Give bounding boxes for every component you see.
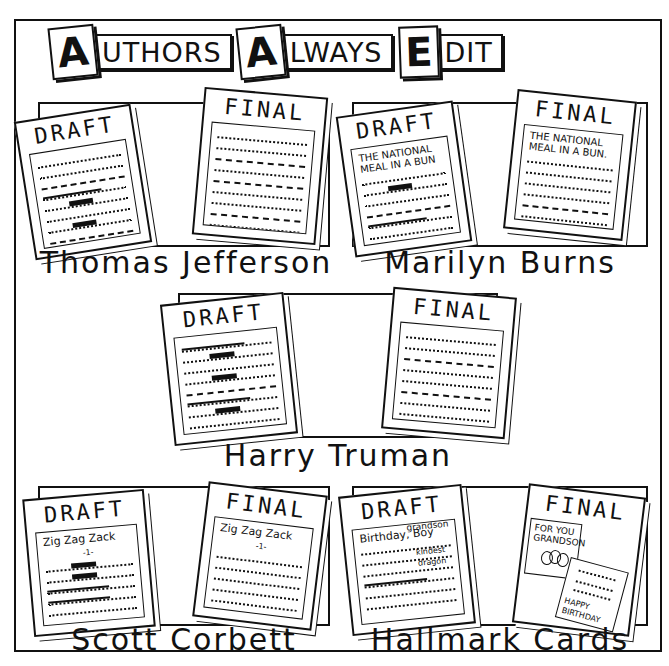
author-name: Thomas Jefferson xyxy=(36,245,336,280)
author-name: Hallmark Cards xyxy=(352,622,648,657)
title-word-authors: A UTHORS xyxy=(50,26,232,78)
card-front-text: FOR YOU GRANDSON xyxy=(528,519,581,551)
author-name: Harry Truman xyxy=(178,438,498,473)
draft-text-area: THE NATIONAL MEAL IN A BUN xyxy=(350,136,461,247)
final-text-area xyxy=(203,122,316,235)
title-rest: UTHORS xyxy=(92,34,232,70)
page-title: A UTHORS A LWAYS E DIT xyxy=(50,22,503,82)
final-page: FINAL THE NATIONAL MEAL IN A BUN. xyxy=(503,89,637,241)
draft-page: DRAFT xyxy=(160,292,298,446)
title-initial: E xyxy=(398,25,440,78)
draft-heading: THE NATIONAL MEAL IN A BUN xyxy=(358,141,444,174)
final-page: FINAL FOR YOU GRANDSON HAPPY BIRTHDAY xyxy=(512,483,646,636)
draft-text-area xyxy=(173,327,287,435)
draft-insert-kindest: kindest xyxy=(416,545,446,557)
draft-text-area xyxy=(29,139,141,249)
draft-page: DRAFT THE NATIONAL MEAL IN A BUN xyxy=(336,100,473,257)
draft-page: DRAFT Zig Zag Zack -1- xyxy=(22,489,156,637)
draft-text-area: Zig Zag Zack -1- xyxy=(35,524,145,627)
final-page: FINAL Zig Zag Zack -1- xyxy=(192,481,328,631)
final-heading: THE NATIONAL MEAL IN A BUN. xyxy=(528,130,616,161)
final-text-area: THE NATIONAL MEAL IN A BUN. xyxy=(514,124,623,230)
author-name: Scott Corbett xyxy=(36,622,332,657)
title-initial: A xyxy=(47,24,98,81)
draft-insert-dragon: dragon xyxy=(418,556,447,568)
title-initial: A xyxy=(235,24,286,81)
author-name: Marilyn Burns xyxy=(352,245,648,280)
title-rest: DIT xyxy=(435,34,503,70)
draft-insert-grandson: grandson xyxy=(406,519,449,534)
title-word-always: A LWAYS xyxy=(238,26,393,78)
title-word-edit: E DIT xyxy=(399,26,503,78)
draft-heading: Birthday, Boy grandson xyxy=(359,524,450,544)
draft-page: DRAFT xyxy=(14,104,152,261)
draft-page: DRAFT Birthday, Boy grandson kindest dra… xyxy=(338,484,476,636)
final-text-area: Zig Zag Zack -1- xyxy=(203,516,313,620)
title-rest: LWAYS xyxy=(280,34,393,70)
final-page: FINAL xyxy=(192,87,328,245)
final-page: FINAL xyxy=(381,287,517,439)
final-text-area xyxy=(392,322,504,429)
draft-text-area: Birthday, Boy grandson kindest dragon xyxy=(352,519,465,625)
